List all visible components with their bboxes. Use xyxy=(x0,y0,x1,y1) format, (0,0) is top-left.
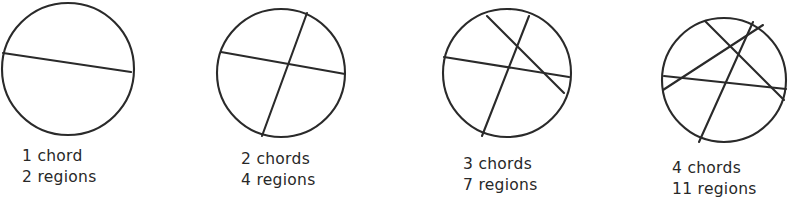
chords-regions-figure: 1 chord2 regions2 chords4 regions3 chord… xyxy=(0,0,793,205)
regions-label: 11 regions xyxy=(672,179,757,200)
panel-caption-4: 4 chords11 regions xyxy=(672,158,757,200)
circle-outline xyxy=(662,18,786,142)
chords-label: 4 chords xyxy=(672,158,757,179)
chord-panel-4: 4 chords11 regions xyxy=(0,0,793,205)
